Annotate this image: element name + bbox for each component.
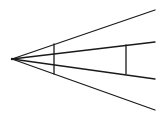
ray-1 [12, 10, 155, 59]
ray-4 [12, 59, 155, 110]
rays-group [12, 10, 155, 110]
ray-3 [12, 59, 155, 79]
ray-2 [12, 42, 155, 59]
vertex-point [11, 58, 13, 60]
diagram-canvas [0, 0, 163, 119]
